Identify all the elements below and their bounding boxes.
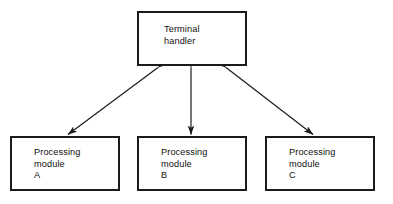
- node-terminal-handler[interactable]: Terminal handler: [137, 11, 247, 66]
- node-terminal-handler-label: Terminal handler: [164, 24, 200, 47]
- connector-terminal-module-c: [226, 68, 313, 135]
- connector-terminal-module-a: [68, 68, 158, 135]
- node-processing-module-b-label: Processing module B: [161, 147, 207, 182]
- node-processing-module-c-label: Processing module C: [289, 147, 335, 182]
- diagram-canvas: Terminal handler Processing module A Pro…: [0, 0, 393, 204]
- node-processing-module-c[interactable]: Processing module C: [265, 136, 375, 191]
- node-processing-module-a[interactable]: Processing module A: [10, 136, 120, 191]
- node-processing-module-b[interactable]: Processing module B: [137, 136, 247, 191]
- node-processing-module-a-label: Processing module A: [34, 147, 80, 182]
